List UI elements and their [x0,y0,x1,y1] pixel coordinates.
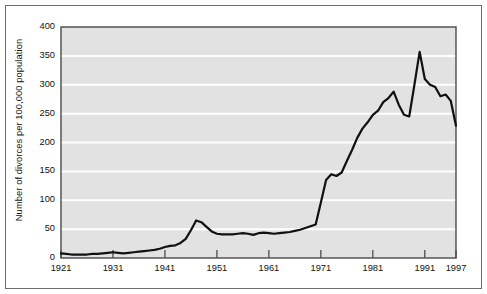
chart-figure: Number of divorces per 100,000 populatio… [0,0,487,294]
chart-plot-container: Number of divorces per 100,000 populatio… [0,0,487,294]
line-chart-svg [0,0,487,294]
